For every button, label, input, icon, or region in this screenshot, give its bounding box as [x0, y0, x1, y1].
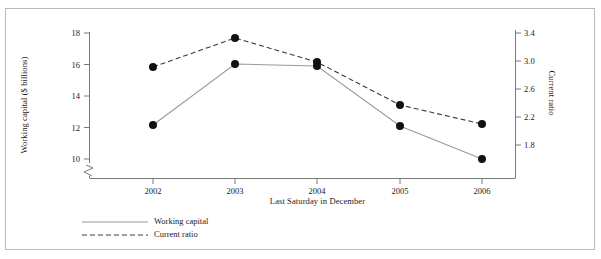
legend-samples [82, 222, 148, 235]
legend-label-working-capital: Working capital [154, 216, 208, 226]
series-working-capital [149, 60, 486, 163]
current-ratio-point-2002 [149, 63, 157, 71]
working-capital-point-2005 [396, 122, 404, 130]
current-ratio-point-2004 [313, 58, 321, 66]
left-tick-label-16: 16 [58, 60, 80, 70]
working-capital-line [153, 64, 482, 159]
left-tick-label-12: 12 [58, 123, 80, 133]
axis-break-symbol [84, 165, 93, 176]
left-axis-title: Working capital ($ billions) [19, 35, 29, 175]
x-tick-label-2006: 2006 [462, 186, 502, 196]
series-current-ratio [149, 34, 486, 128]
working-capital-point-2002 [149, 121, 157, 129]
legend-label-current-ratio: Current ratio [154, 229, 198, 239]
chart-figure: 18 16 14 12 10 3.4 3.0 2.6 2.2 1.8 2002 … [0, 0, 601, 259]
x-axis-group [90, 179, 516, 185]
x-tick-label-2004: 2004 [297, 186, 337, 196]
right-tick-label-1-8: 1.8 [524, 140, 546, 150]
right-tick-label-2-6: 2.6 [524, 84, 546, 94]
current-ratio-line [153, 38, 482, 124]
current-ratio-point-2006 [478, 120, 486, 128]
left-axis-group [84, 32, 93, 178]
left-tick-label-18: 18 [58, 28, 80, 38]
working-capital-point-2003 [231, 60, 239, 68]
working-capital-point-2006 [478, 155, 486, 163]
right-axis-title: Current ratio [547, 53, 557, 133]
x-tick-label-2003: 2003 [215, 186, 255, 196]
plot-area [0, 0, 601, 259]
x-tick-label-2005: 2005 [380, 186, 420, 196]
x-axis-title: Last Saturday in December [200, 196, 435, 206]
right-tick-label-3-4: 3.4 [524, 28, 546, 38]
left-tick-label-14: 14 [58, 91, 80, 101]
left-tick-label-10: 10 [58, 154, 80, 164]
current-ratio-point-2003 [231, 34, 239, 42]
right-axis-group [516, 30, 522, 178]
current-ratio-point-2005 [396, 101, 404, 109]
right-tick-label-3-0: 3.0 [524, 56, 546, 66]
x-tick-label-2002: 2002 [133, 186, 173, 196]
right-tick-label-2-2: 2.2 [524, 112, 546, 122]
